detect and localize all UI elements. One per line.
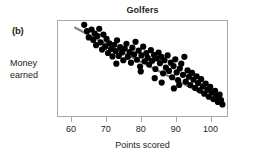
data-point [178,61,184,67]
data-point [176,82,182,88]
data-point [140,44,146,50]
y-axis-label-line-2: earned [10,70,56,82]
data-point [152,75,158,81]
data-point [207,84,213,90]
panel-label: (b) [12,25,24,36]
data-point [134,57,140,63]
data-point [198,76,204,82]
data-point [113,61,119,67]
x-tickmark [106,117,107,122]
y-axis-label-line-1: Money [10,58,56,70]
x-tick-label: 60 [66,124,76,134]
data-point [219,101,225,107]
data-point [152,66,158,72]
y-axis-label: Money earned [10,58,56,81]
data-point [169,74,175,80]
data-point [170,63,176,69]
data-point [159,79,165,85]
x-axis-tick-labels: 60708090100 [57,124,228,138]
data-point [129,45,135,51]
x-tickmark [176,117,177,122]
x-tickmark [71,117,72,122]
scatter-plot-area [57,20,228,117]
data-point [114,37,120,43]
data-point [94,33,100,39]
data-point [180,72,186,78]
data-points [81,22,225,108]
data-point [109,53,115,59]
data-point [166,68,172,74]
data-point [81,22,87,28]
data-point [132,39,138,45]
data-point [165,52,171,58]
data-point [96,26,102,32]
x-tickmark [211,117,212,122]
x-tickmark [141,117,142,122]
data-point [123,41,129,47]
data-point [98,39,104,45]
x-tick-label: 70 [101,124,111,134]
data-point [171,85,177,91]
x-tick-label: 100 [203,124,218,134]
data-point [160,70,166,76]
x-axis-tickmarks [57,117,228,124]
x-axis-label: Points scored [57,140,228,150]
x-tick-label: 90 [171,124,181,134]
data-point [181,54,187,60]
data-point [217,92,223,98]
figure-panel: (b) Golfers Money earned 60708090100 Poi… [0,0,264,165]
chart-title: Golfers [57,5,228,15]
data-point [138,68,144,74]
data-point [172,56,178,62]
data-point [128,60,134,66]
x-tick-label: 80 [136,124,146,134]
